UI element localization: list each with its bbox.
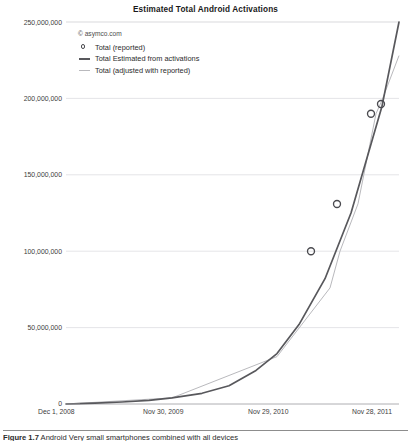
y-tick-label-0: 0 xyxy=(4,400,62,407)
data-point xyxy=(368,110,375,117)
legend-item-total-estimated: Total Estimated from activations xyxy=(78,53,253,65)
y-tick-label-250m: 250,000,000 xyxy=(4,19,62,26)
x-tick-label-nov-2009: Nov 30, 2009 xyxy=(143,408,183,415)
legend-item-label: Total (reported) xyxy=(95,43,145,52)
y-tick-label-150m: 150,000,000 xyxy=(4,171,62,178)
caption-divider xyxy=(3,430,408,431)
legend-item-total-adjusted: Total (adjusted with reported) xyxy=(78,65,253,77)
series-line-estimated xyxy=(66,22,399,404)
legend-item-label: Total Estimated from activations xyxy=(95,54,199,63)
x-tick-label-nov-2011: Nov 28, 2011 xyxy=(352,408,392,415)
legend-item-total-reported: Total (reported) xyxy=(78,42,253,54)
y-tick-label-200m: 200,000,000 xyxy=(4,95,62,102)
legend-item-label: Total (adjusted with reported) xyxy=(95,66,190,75)
y-tick-label-100m: 100,000,000 xyxy=(4,248,62,255)
series-markers-reported xyxy=(308,101,385,255)
figure-caption: Figure 1.7 Android Very small smartphone… xyxy=(3,433,408,441)
y-tick-label-50m: 50,000,000 xyxy=(4,324,62,331)
open-circle-marker-icon xyxy=(78,42,91,53)
series-line-adjusted xyxy=(66,56,399,404)
x-tick-label-nov-2010: Nov 29, 2010 xyxy=(248,408,288,415)
line-swatch-light-icon xyxy=(78,65,91,76)
credit-label: © asymco.com xyxy=(78,30,253,37)
data-point xyxy=(334,201,341,208)
chart-figure: Estimated Total Android Activations xyxy=(0,0,411,441)
figure-caption-lead: Figure 1.7 xyxy=(3,433,39,441)
line-swatch-dark-icon xyxy=(78,53,91,64)
x-tick-label-dec-2008: Dec 1, 2008 xyxy=(38,408,75,415)
figure-caption-rest: Android Very small smartphones combined … xyxy=(39,433,238,441)
chart-legend: © asymco.com Total (reported) Total Esti… xyxy=(78,30,253,76)
